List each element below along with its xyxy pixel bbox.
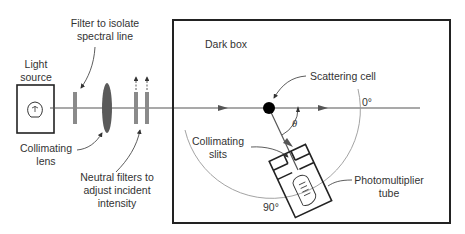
spectral-filter	[73, 92, 77, 124]
beam-arrow-icon	[218, 105, 228, 111]
neutral-filters-label: Neutral filters toadjust incidentintensi…	[80, 171, 154, 209]
neutral-filter-1	[134, 92, 138, 124]
dark-box-label: Dark box	[205, 38, 248, 50]
light-bulb-icon	[28, 102, 43, 117]
lens-label: Collimatinglens	[20, 142, 72, 167]
angle-90-label: 90°	[263, 201, 279, 213]
scattering-cell	[263, 102, 275, 114]
light-source-label: Lightsource	[20, 58, 52, 83]
beam-arrow-icon-2	[318, 105, 328, 111]
neutral-filter-2	[145, 92, 149, 124]
scattered-arrow-icon	[283, 138, 293, 147]
photomultiplier-pointer	[328, 180, 352, 186]
neutral-filters-pointer	[116, 130, 140, 172]
collimating-slits-label: Collimatingslits	[192, 135, 244, 160]
pmt-tube-icon	[291, 173, 318, 207]
lens-pointer	[77, 133, 102, 150]
theta-label: θ	[292, 118, 297, 129]
filter-label: Filter to isolatespectral line	[71, 17, 139, 42]
photomultiplier-label: Photomultipliertube	[354, 174, 424, 199]
scattering-diagram: Lightsource Filter to isolatespectral li…	[0, 0, 465, 234]
filter-pointer	[81, 47, 95, 88]
scattering-cell-label: Scattering cell	[310, 70, 376, 82]
theta-arrow-icon	[296, 106, 300, 112]
light-source	[17, 85, 54, 133]
collimating-lens	[102, 83, 112, 133]
scattering-cell-pointer	[274, 76, 306, 98]
angle-0-label: 0°	[362, 96, 372, 108]
dark-box	[173, 20, 450, 223]
